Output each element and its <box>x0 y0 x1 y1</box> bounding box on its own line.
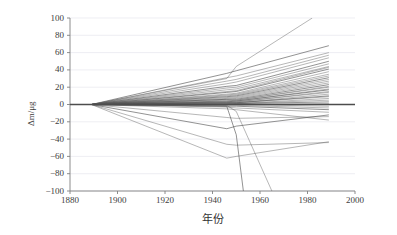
series-line <box>91 105 329 159</box>
plot-area <box>0 0 397 235</box>
series-line <box>91 105 272 192</box>
chart-figure: Δm/μg 100 80 60 40 20 0 −20 −40 −60 −80 … <box>0 0 397 235</box>
series-line <box>91 105 243 192</box>
series-line <box>91 18 312 105</box>
